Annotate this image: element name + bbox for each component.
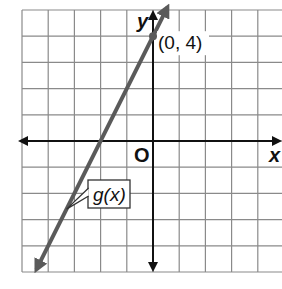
coordinate-plane: g(x) (0, 4) x y O	[0, 0, 282, 289]
origin-label: O	[134, 144, 150, 166]
point-marker	[149, 32, 157, 40]
y-axis-label: y	[136, 10, 149, 32]
function-label: g(x)	[93, 184, 126, 205]
series-layer	[36, 7, 167, 269]
series-line-g	[36, 7, 167, 269]
point-label: (0, 4)	[158, 32, 202, 53]
x-axis-label: x	[268, 144, 281, 166]
